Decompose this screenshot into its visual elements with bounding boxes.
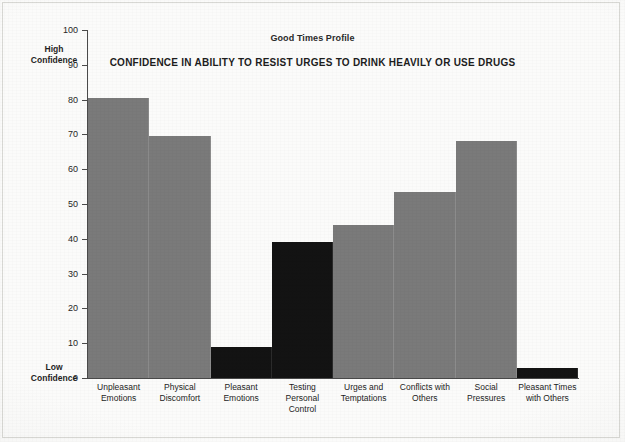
y-axis-tick-label: 60 xyxy=(68,164,78,174)
y-axis-tick: 40 xyxy=(82,239,87,240)
x-axis-label-line2: Control xyxy=(273,404,332,415)
y-axis-tick: 20 xyxy=(82,308,87,309)
x-axis-label-3: PleasantEmotions xyxy=(211,382,272,415)
x-axis-label-line2: Emotions xyxy=(212,393,271,404)
y-axis-tick: 50 xyxy=(82,204,87,205)
y-axis-tick: 70 xyxy=(82,134,87,135)
x-axis-label-8: Pleasant Timeswith Others xyxy=(517,382,578,415)
bar-fill xyxy=(394,192,455,378)
x-axis-label-line2: Emotions xyxy=(89,393,148,404)
y-axis-tick-label: 10 xyxy=(68,338,78,348)
plot-area: 1009080706050403020100 xyxy=(88,30,578,378)
bar-fill xyxy=(88,98,149,378)
y-axis-tick: 60 xyxy=(82,169,87,170)
y-axis-tick: 90 xyxy=(82,65,87,66)
bar-fill xyxy=(333,225,394,378)
x-axis-label-line2: Discomfort xyxy=(150,393,209,404)
chart-page: Good Times Profile CONFIDENCE IN ABILITY… xyxy=(0,0,625,442)
y-axis-tick: 80 xyxy=(82,100,87,101)
y-axis-tick-label: 80 xyxy=(68,95,78,105)
x-axis-label-line2: with Others xyxy=(518,393,577,404)
x-axis-label-line1: Urges and xyxy=(334,382,393,393)
bar-series xyxy=(88,30,578,378)
bar-fill xyxy=(517,368,578,378)
x-axis-label-line1: Physical xyxy=(150,382,209,393)
y-axis-tick-label: 70 xyxy=(68,129,78,139)
x-axis-label-line1: Unpleasant xyxy=(89,382,148,393)
bar-fill xyxy=(211,347,272,378)
x-axis-label-2: PhysicalDiscomfort xyxy=(149,382,210,415)
x-axis-label-line1: Pleasant Times xyxy=(518,382,577,393)
low-confidence-label-line1: Low xyxy=(22,362,86,373)
y-axis-tick-label: 100 xyxy=(63,25,78,35)
y-axis-tick-label: 50 xyxy=(68,199,78,209)
x-axis-label-5: Urges andTemptations xyxy=(333,382,394,415)
bar-fill xyxy=(272,242,333,378)
x-axis-line xyxy=(87,378,579,379)
y-axis-tick-label: 20 xyxy=(68,303,78,313)
x-axis-label-line1: Social Pressures xyxy=(457,382,516,404)
y-axis-tick: 100 xyxy=(82,30,87,31)
x-axis-label-line1: Conflicts with xyxy=(395,382,454,393)
y-axis-tick-label: 0 xyxy=(73,373,78,383)
x-axis-labels: UnpleasantEmotionsPhysicalDiscomfortPlea… xyxy=(88,382,578,415)
high-confidence-label-line1: High xyxy=(22,44,86,55)
x-axis-label-line1: Pleasant xyxy=(212,382,271,393)
x-axis-label-7: Social Pressures xyxy=(456,382,517,415)
x-axis-label-4: Testing PersonalControl xyxy=(272,382,333,415)
x-axis-label-line1: Testing Personal xyxy=(273,382,332,404)
bar-fill xyxy=(149,136,210,378)
bar-fill xyxy=(456,141,517,378)
x-axis-label-line2: Temptations xyxy=(334,393,393,404)
y-axis-tick: 30 xyxy=(82,274,87,275)
y-axis-tick: 0 xyxy=(82,378,87,379)
y-axis-tick: 10 xyxy=(82,343,87,344)
x-axis-label-6: Conflicts withOthers xyxy=(394,382,455,415)
x-axis-label-line2: Others xyxy=(395,393,454,404)
y-axis-tick-label: 40 xyxy=(68,234,78,244)
y-axis-tick-label: 90 xyxy=(68,60,78,70)
y-axis-tick-label: 30 xyxy=(68,269,78,279)
x-axis-label-1: UnpleasantEmotions xyxy=(88,382,149,415)
